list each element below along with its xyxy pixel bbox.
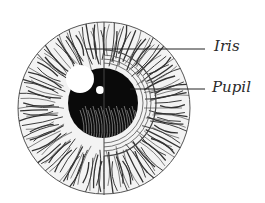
- highlight-small: [96, 86, 104, 94]
- label-iris: Iris: [214, 39, 240, 54]
- label-pupil: Pupil: [212, 80, 251, 95]
- eye-illustration: [0, 0, 265, 203]
- highlight-large: [66, 65, 94, 93]
